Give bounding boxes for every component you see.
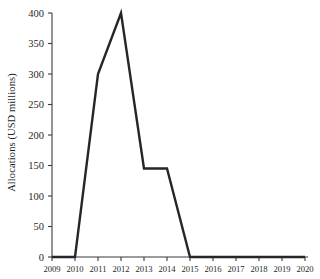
x-tick-label: 2020 bbox=[296, 264, 313, 274]
x-tick-label: 2015 bbox=[181, 264, 198, 274]
x-tick-label: 2017 bbox=[227, 264, 245, 274]
data-series-line bbox=[52, 13, 305, 257]
x-tick-label: 2019 bbox=[273, 264, 290, 274]
y-tick-label: 400 bbox=[28, 8, 44, 19]
y-tick-label: 100 bbox=[28, 191, 44, 202]
x-tick-label: 2012 bbox=[112, 264, 129, 274]
x-tick-label: 2018 bbox=[250, 264, 267, 274]
y-tick-label: 150 bbox=[28, 160, 44, 171]
x-tick-label: 2009 bbox=[43, 264, 60, 274]
x-tick-label: 2016 bbox=[204, 264, 222, 274]
x-tick-label: 2013 bbox=[135, 264, 152, 274]
y-tick-label: 50 bbox=[34, 221, 45, 232]
x-tick-label: 2014 bbox=[158, 264, 176, 274]
x-tick-label: 2010 bbox=[66, 264, 83, 274]
y-tick-label: 0 bbox=[39, 252, 44, 263]
line-chart-figure: Allocations (USD millions) 4003503002502… bbox=[0, 0, 320, 279]
y-tick-label: 250 bbox=[28, 99, 44, 110]
x-tick-labels: 2009201020112012201320142015201620172018… bbox=[43, 264, 313, 274]
y-tick-label: 300 bbox=[28, 69, 44, 80]
y-tick-label: 350 bbox=[28, 38, 44, 49]
y-tick-labels: 400350300250200150100500 bbox=[28, 8, 44, 263]
plot-area: 400350300250200150100500 200920102011201… bbox=[0, 0, 320, 279]
x-tick-label: 2011 bbox=[90, 264, 107, 274]
y-tick-label: 200 bbox=[28, 130, 44, 141]
y-tick-marks bbox=[48, 13, 52, 257]
